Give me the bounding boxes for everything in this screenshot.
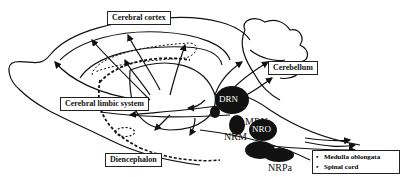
nrpa-label: NRPa [268,162,292,173]
cerebral-cortex-label: Cerebral cortex [107,11,171,25]
nrpa-nucleus [264,148,294,162]
legend-box: •Medulla oblongata •Spinal cord [312,150,400,174]
diencephalon-label: Diencephalon [105,153,162,167]
legend-item-spinal-cord: •Spinal cord [316,162,396,172]
cerebellum-label: Cerebellum [268,61,318,75]
nrm-label: NRM [224,131,247,142]
legend-item-medulla: •Medulla oblongata [316,152,396,162]
drn-label: DRN [219,94,238,104]
cerebral-limbic-system-label: Cerebral limbic system [60,97,149,111]
nro-label: NRO [252,124,271,134]
